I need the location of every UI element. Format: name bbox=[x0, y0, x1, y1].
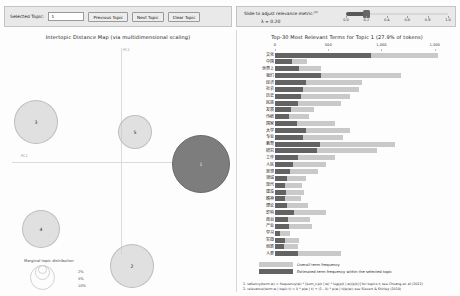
topic-bubble-4[interactable]: 4 bbox=[22, 210, 60, 248]
term-bar-row[interactable]: 历史 bbox=[237, 93, 457, 99]
term-label: 产业 bbox=[244, 223, 274, 229]
term-bar-row[interactable]: 领域 bbox=[237, 175, 457, 181]
bar-topic-frequency bbox=[275, 114, 289, 119]
bar-topic-frequency bbox=[275, 73, 321, 78]
bar-topic-frequency bbox=[275, 251, 298, 256]
term-label: 传统 bbox=[244, 114, 274, 120]
term-bar-row[interactable]: 教育 bbox=[237, 141, 457, 147]
bar-topic-frequency bbox=[275, 87, 303, 92]
lambda-value-label: λ = 0.20 bbox=[261, 19, 280, 24]
term-bar-row[interactable]: 产业 bbox=[237, 223, 457, 229]
term-bar-row[interactable]: 大学 bbox=[237, 127, 457, 133]
term-bar-row[interactable]: 工作 bbox=[237, 155, 457, 161]
term-label: 发展 bbox=[244, 107, 274, 113]
term-bar-row[interactable]: 人类 bbox=[237, 251, 457, 257]
term-label: 现代 bbox=[244, 182, 274, 188]
bar-topic-frequency bbox=[275, 190, 286, 195]
x-tick-mark bbox=[435, 49, 436, 51]
previous-topic-button[interactable]: Previous Topic bbox=[88, 12, 128, 22]
topic-bubble-number: 5 bbox=[134, 130, 137, 135]
term-label: 实践 bbox=[244, 237, 274, 243]
term-bar-row[interactable]: 研究 bbox=[237, 148, 457, 154]
topic-bubble-number: 3 bbox=[35, 120, 38, 125]
bar-chart-legend: Overall term frequency Estimated term fr… bbox=[259, 262, 457, 282]
topic-bubble-1[interactable]: 1 bbox=[172, 135, 230, 193]
slider-tick-label: 0.0 bbox=[343, 18, 349, 22]
x-tick-mark bbox=[381, 49, 382, 51]
bar-topic-frequency bbox=[275, 121, 297, 126]
top-terms-panel: Top-30 Most Relevant Terms for Topic 1 (… bbox=[236, 30, 457, 292]
bar-topic-frequency bbox=[275, 183, 285, 188]
term-bar-row[interactable]: 政治 bbox=[237, 216, 457, 222]
bar-topic-frequency bbox=[275, 169, 290, 174]
pyldavis-app: Selected Topic: Previous Topic Next Topi… bbox=[0, 0, 460, 296]
bar-topic-frequency bbox=[275, 59, 292, 64]
slider-tick-label: 0.4 bbox=[384, 18, 390, 22]
term-bar-row[interactable]: 现代 bbox=[237, 182, 457, 188]
topic-control-toolbar: Selected Topic: Previous Topic Next Topi… bbox=[4, 6, 232, 27]
legend-label-topic: Estimated term frequency within the sele… bbox=[297, 270, 392, 274]
term-bar-row[interactable]: 创新 bbox=[237, 244, 457, 250]
legend-swatch-overall bbox=[259, 262, 293, 267]
x-tick-mark bbox=[275, 49, 276, 51]
legend-pct-5: 5% bbox=[78, 277, 84, 281]
term-bar-row[interactable]: 人民 bbox=[237, 162, 457, 168]
term-bar-row[interactable]: 中国 bbox=[237, 59, 457, 65]
clear-topic-button[interactable]: Clear Topic bbox=[168, 12, 201, 22]
topic-bubble-number: 2 bbox=[131, 264, 134, 269]
term-bar-row[interactable]: 学习 bbox=[237, 230, 457, 236]
legend-swatch-topic bbox=[259, 269, 293, 274]
term-label: 我们 bbox=[244, 73, 274, 79]
term-label: 人民 bbox=[244, 162, 274, 168]
term-label: 影响 bbox=[244, 210, 274, 216]
bar-topic-frequency bbox=[275, 135, 303, 140]
relevance-metric-toolbar: Slide to adjust relevance metric:(2) λ =… bbox=[236, 6, 456, 27]
slider-tick-labels: 0.00.20.40.60.81.0 bbox=[346, 18, 448, 26]
footnote-relevance: 2. relevance(term w | topic t) = λ * p(w… bbox=[243, 287, 455, 292]
slider-tick-label: 1.0 bbox=[445, 18, 451, 22]
slider-tick-label: 0.6 bbox=[404, 18, 410, 22]
term-bar-row[interactable]: 思想 bbox=[237, 168, 457, 174]
term-bar-row[interactable]: 发展 bbox=[237, 107, 457, 113]
legend-entry-topic: Estimated term frequency within the sele… bbox=[259, 269, 392, 274]
legend-pct-10: 10% bbox=[78, 284, 86, 288]
term-bar-row[interactable]: 精神 bbox=[237, 196, 457, 202]
term-label: 建设 bbox=[244, 189, 274, 195]
relevance-metric-text: Slide to adjust relevance metric: bbox=[244, 11, 314, 16]
bar-topic-frequency bbox=[275, 107, 291, 112]
term-bar-row[interactable]: 理论 bbox=[237, 203, 457, 209]
top-terms-title: Top-30 Most Relevant Terms for Topic 1 (… bbox=[237, 34, 457, 40]
topic-bubble-3[interactable]: 3 bbox=[14, 100, 58, 144]
slider-tick-label: 0.2 bbox=[364, 18, 370, 22]
legend-pct-2: 2% bbox=[78, 270, 84, 274]
selected-topic-input[interactable] bbox=[48, 12, 84, 21]
term-bar-row[interactable]: 民族 bbox=[237, 100, 457, 106]
term-bar-row[interactable]: 世界上 bbox=[237, 66, 457, 72]
relevance-metric-label: Slide to adjust relevance metric:(2) bbox=[244, 10, 318, 16]
pc2-axis-label: PC2 bbox=[123, 48, 130, 52]
term-bar-row[interactable]: 经济 bbox=[237, 79, 457, 85]
topic-scatter-plot[interactable]: PC1 PC2 12345 bbox=[4, 44, 232, 254]
term-bar-row[interactable]: 专业 bbox=[237, 134, 457, 140]
relevance-footnote-ref: (2) bbox=[314, 10, 318, 14]
term-bar-row[interactable]: 社会 bbox=[237, 86, 457, 92]
topic-bubble-number: 4 bbox=[40, 227, 43, 232]
term-label: 中国 bbox=[244, 59, 274, 65]
term-label: 思想 bbox=[244, 169, 274, 175]
next-topic-button[interactable]: Next Topic bbox=[132, 12, 164, 22]
bar-topic-frequency bbox=[275, 203, 287, 208]
lambda-slider[interactable]: 0.00.20.40.60.81.0 bbox=[346, 10, 448, 26]
x-tick-label: 1,500 bbox=[430, 43, 440, 47]
bar-topic-frequency bbox=[275, 224, 289, 229]
footnotes: 1. saliency(term w) = frequency(w) * [su… bbox=[243, 282, 455, 292]
topic-bubble-5[interactable]: 5 bbox=[118, 115, 152, 149]
term-bar-row[interactable]: 我们 bbox=[237, 73, 457, 79]
term-bar-row[interactable]: 文化 bbox=[237, 52, 457, 58]
term-bar-row[interactable]: 实践 bbox=[237, 237, 457, 243]
term-bar-row[interactable]: 传统 bbox=[237, 114, 457, 120]
term-bar-row[interactable]: 建设 bbox=[237, 189, 457, 195]
bar-topic-frequency bbox=[275, 53, 371, 58]
term-bar-row[interactable]: 影响 bbox=[237, 210, 457, 216]
term-label: 国家 bbox=[244, 121, 274, 127]
term-bar-row[interactable]: 国家 bbox=[237, 121, 457, 127]
